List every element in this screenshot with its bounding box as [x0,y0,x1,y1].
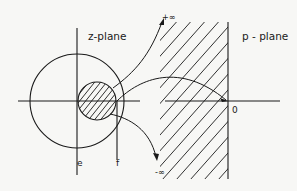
conformal-mapping-diagram: z-plane e f +∞ -∞ [0,0,297,191]
p-plane: 0 p - plane [36,0,297,180]
plus-infinity-label: +∞ [162,13,175,22]
hatched-half-plane [36,0,297,180]
point-e-label: e [77,158,83,168]
curve-to-origin [117,77,226,101]
arrowhead-minus-infinity [153,153,159,161]
origin-label: 0 [232,105,238,115]
p-plane-label: p - plane [242,30,288,42]
z-plane-label: z-plane [88,30,126,42]
point-f-label: f [116,158,120,168]
mapping-curves [110,18,228,161]
minus-infinity-label: -∞ [155,168,165,177]
z-plane: z-plane e f [18,28,140,175]
